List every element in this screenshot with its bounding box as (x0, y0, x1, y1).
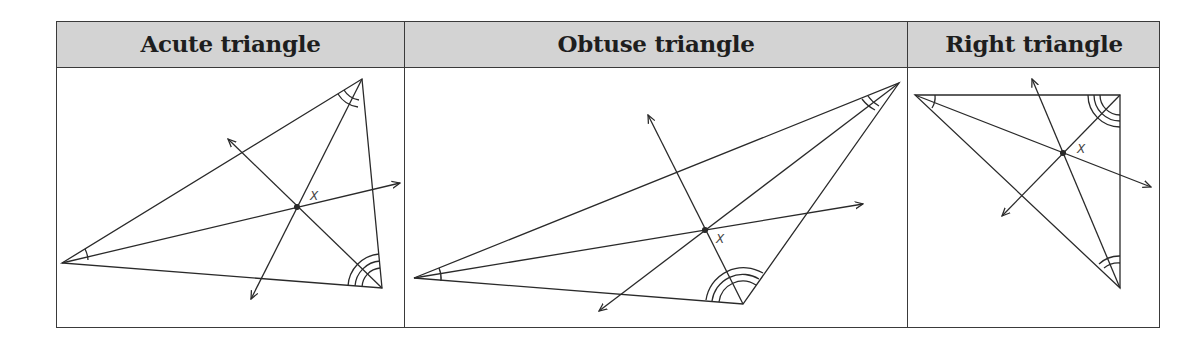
obtuse-triangle-outline (414, 83, 899, 304)
angle-bisector-ray (599, 83, 899, 311)
angle-mark-double (338, 94, 358, 107)
angle-bisector-ray (648, 115, 743, 304)
incenter-label: X (1076, 142, 1086, 156)
right-triangle-figure (915, 79, 1151, 288)
angle-bisector-ray (62, 183, 400, 263)
angle-bisector-ray (414, 204, 863, 278)
triangle-diagrams: X X X (0, 0, 1199, 341)
incenter-label: X (309, 189, 319, 203)
angle-bisector-ray (228, 139, 382, 288)
acute-triangle-outline (62, 79, 382, 288)
angle-mark-double (862, 99, 875, 110)
angle-mark-single (85, 249, 88, 260)
angle-bisector-ray (251, 79, 362, 299)
angle-mark-single (439, 268, 441, 281)
angle-bisector-ray (915, 95, 1151, 187)
acute-triangle-figure (62, 79, 400, 299)
incenter-point (703, 228, 708, 233)
incenter-label: X (715, 232, 725, 246)
right-triangle-outline (915, 95, 1120, 288)
obtuse-triangle-figure (414, 83, 899, 311)
incenter-point (1061, 151, 1066, 156)
incenter-point (295, 205, 300, 210)
